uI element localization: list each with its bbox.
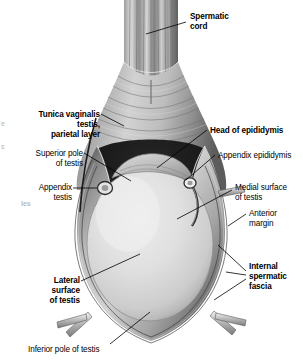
margin-artifact-1: e (1, 120, 5, 127)
margin-artifact-3: les (21, 200, 31, 207)
label-appendix-epididymis: Appendix epididymis (218, 151, 303, 161)
label-head-of-epididymis: Head of epididymis (210, 126, 303, 136)
margin-artifact-2: s (1, 143, 5, 150)
cut-fascia-edge-left (57, 312, 92, 337)
testis-illustration (0, 0, 303, 360)
label-tunica-vaginalis-testis-parietal-layer: Tunica vaginalis testis, parietal layer (0, 110, 100, 140)
label-spermatic-cord: Spermatic cord (190, 12, 290, 32)
label-lateral-surface-of-testis: Lateral surface of testis (0, 276, 80, 306)
label-medial-surface-of-testis: Medial surface of testis (235, 183, 303, 203)
label-appendix-testis: Appendix testis (0, 183, 72, 203)
label-superior-pole-of-testis: Superior pole of testis (0, 149, 83, 169)
appendix-testis-structure (98, 182, 113, 195)
label-inferior-pole-of-testis: Inferior pole of testis (28, 345, 138, 355)
label-internal-spermatic-fascia: Internal spermatic fascia (249, 262, 303, 292)
label-anterior-margin: Anterior margin (249, 209, 303, 229)
appendix-epididymis-structure (184, 178, 196, 188)
anatomical-figure: Spermatic cord Tunica vaginalis testis, … (0, 0, 303, 360)
